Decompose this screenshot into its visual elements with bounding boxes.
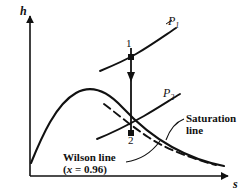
isobar-p1-curve <box>100 28 176 71</box>
wilson-callout-line1: Wilson line <box>63 151 116 163</box>
isobar-p1-subscript: 1 <box>175 21 179 30</box>
isobar-p2-label: P2 <box>163 87 174 103</box>
state-label-2: 2 <box>128 134 134 146</box>
wilson-callout-line2: (x = 0.96) <box>63 163 116 175</box>
saturation-leader-line <box>166 119 184 140</box>
y-axis-label: h <box>20 5 27 18</box>
diagram-canvas <box>0 0 243 194</box>
saturation-line-callout: Saturation line <box>186 112 236 137</box>
mollier-diagram-figure: h s P1 P2 1 2 Saturation line Wilson lin… <box>0 0 243 194</box>
wilson-line-callout: Wilson line (x = 0.96) <box>63 151 116 176</box>
process-arrowhead-mid <box>127 72 135 82</box>
state-point-1-marker <box>128 54 134 60</box>
isobar-p1-label: P1 <box>168 15 179 31</box>
state-label-1: 1 <box>126 37 132 49</box>
x-axis-label: s <box>233 178 238 191</box>
saturation-callout-line1: Saturation <box>186 112 236 124</box>
wilson-quality-value: = 0.96) <box>72 163 107 175</box>
isobar-p2-subscript: 2 <box>170 93 174 102</box>
saturation-callout-line2: line <box>186 124 236 136</box>
